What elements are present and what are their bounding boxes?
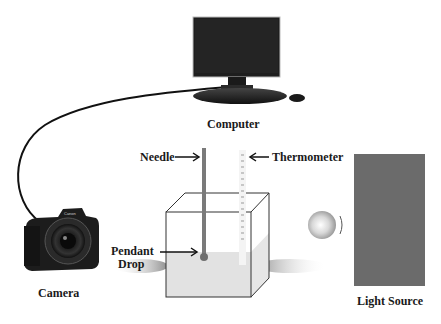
pendant-drop-label-line2: Drop	[118, 258, 144, 271]
thermometer-label: Thermometer	[272, 151, 343, 164]
bulb-icon	[308, 211, 336, 239]
thermometer-arrow-icon	[250, 153, 269, 161]
light-source-panel	[354, 154, 425, 286]
thermometer-icon	[239, 150, 246, 265]
bulb-glow-icon	[340, 216, 342, 234]
camera-brand-text: Canon	[64, 211, 76, 216]
pendant-drop-icon	[200, 253, 208, 261]
diagram-canvas: Canon	[0, 0, 441, 324]
computer-label: Computer	[207, 118, 260, 131]
needle-arrow-icon	[175, 153, 199, 161]
needle-label: Needle	[140, 151, 175, 164]
computer-icon	[193, 17, 305, 104]
light-source-label: Light Source	[357, 295, 423, 308]
needle-icon	[202, 148, 206, 256]
camera-label: Camera	[38, 287, 79, 300]
